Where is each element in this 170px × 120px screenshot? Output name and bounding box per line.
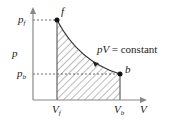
point-b xyxy=(118,72,123,77)
y-axis-label: p xyxy=(12,48,18,59)
point-f xyxy=(55,18,60,23)
label-b: b xyxy=(125,64,131,75)
pv-diagram xyxy=(0,0,170,120)
tick-vf: Vf xyxy=(52,104,61,117)
work-area xyxy=(57,20,120,100)
y-axis-arrow-icon xyxy=(30,7,36,14)
label-f: f xyxy=(61,6,64,17)
curve-equation: pV = constant xyxy=(97,44,157,55)
tick-pb: pb xyxy=(17,68,26,81)
tick-pf: pf xyxy=(18,14,25,27)
tick-vb: Vb xyxy=(114,104,124,117)
x-axis-label: V xyxy=(140,104,147,115)
